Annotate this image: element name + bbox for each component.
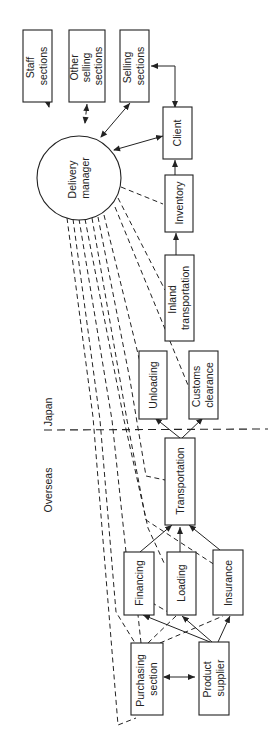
node-transportation[interactable]: Transportation xyxy=(165,438,195,525)
node-unloading[interactable]: Unloading xyxy=(139,351,167,419)
node-delivery-manager[interactable]: Delivery manager xyxy=(37,136,121,220)
region-divider xyxy=(44,429,268,430)
node-purchasing-section[interactable]: Purchasing section xyxy=(131,643,163,715)
svg-text:Unloading: Unloading xyxy=(147,361,159,408)
svg-text:Transportation: Transportation xyxy=(174,447,186,514)
node-selling-sections[interactable]: Selling sections xyxy=(120,30,149,102)
node-customs-clearance[interactable]: Customs clearance xyxy=(189,351,218,419)
node-financing[interactable]: Financing xyxy=(124,552,154,615)
svg-text:Other selling sect: Other selling sections xyxy=(68,47,104,86)
svg-text:Product supplier: Product supplier xyxy=(201,658,226,697)
node-insurance[interactable]: Insurance xyxy=(213,550,243,615)
svg-text:Loading: Loading xyxy=(175,564,187,602)
node-client[interactable]: Client xyxy=(163,107,192,159)
node-product-supplier[interactable]: Product supplier xyxy=(199,642,229,715)
svg-text:Insurance: Insurance xyxy=(222,560,234,606)
node-inventory[interactable]: Inventory xyxy=(165,175,193,232)
node-loading[interactable]: Loading xyxy=(167,552,196,615)
svg-text:Selling sections: Selling sections xyxy=(121,47,146,86)
svg-text:Client: Client xyxy=(171,120,183,147)
node-inland-transportation[interactable]: Inland transportation xyxy=(165,255,194,341)
svg-text:Delivery manager: Delivery manager xyxy=(66,157,91,199)
delivery-flow-diagram: Japan Overseas Delivery mana xyxy=(0,0,278,734)
node-staff-sections[interactable]: Staff sections xyxy=(23,30,52,102)
svg-text:Financing: Financing xyxy=(133,560,145,606)
region-label-overseas: Overseas xyxy=(42,468,54,513)
svg-text:Customs clearance: Customs clearance xyxy=(190,362,215,408)
node-other-selling-sections[interactable]: Other selling sections xyxy=(68,30,105,102)
region-label-japan: Japan xyxy=(42,398,54,427)
svg-text:Inventory: Inventory xyxy=(173,181,185,225)
